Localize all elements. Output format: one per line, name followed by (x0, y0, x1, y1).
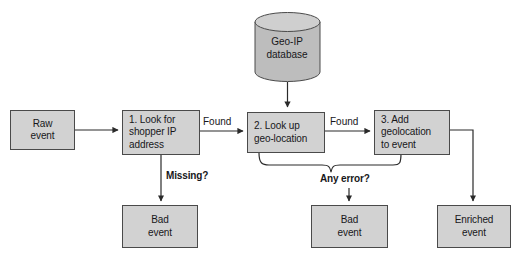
node-enriched-event-label: Enriched event (455, 214, 494, 239)
node-bad-event-2-label: Bad event (338, 214, 362, 239)
brace-any-error (259, 153, 401, 172)
edge-label-any-error: Any error? (320, 173, 370, 184)
edge-step3-to-enriched (450, 130, 473, 201)
node-raw-event[interactable]: Raw event (10, 110, 75, 150)
node-step-2[interactable]: 2. Look up geo-location (247, 112, 325, 153)
node-raw-event-label: Raw event (31, 118, 55, 143)
geo-ip-database-label: Geo-IP database (253, 36, 321, 61)
node-bad-event-1-label: Bad event (148, 214, 172, 239)
node-enriched-event[interactable]: Enriched event (437, 205, 511, 248)
node-step-1-label: 1. Look for shopper IP address (129, 114, 176, 152)
flowchart-diagram: Raw event 1. Look for shopper IP address… (0, 0, 523, 260)
node-step-3[interactable]: 3. Add geolocation to event (374, 110, 450, 155)
node-bad-event-1[interactable]: Bad event (122, 205, 198, 248)
node-step-2-label: 2. Look up geo-location (254, 120, 307, 145)
node-bad-event-2[interactable]: Bad event (311, 205, 388, 248)
node-step-3-label: 3. Add geolocation to event (381, 114, 431, 152)
node-step-1[interactable]: 1. Look for shopper IP address (122, 110, 200, 155)
edge-label-missing: Missing? (166, 170, 208, 181)
edge-label-found-1: Found (203, 116, 231, 127)
edge-label-found-2: Found (330, 116, 358, 127)
